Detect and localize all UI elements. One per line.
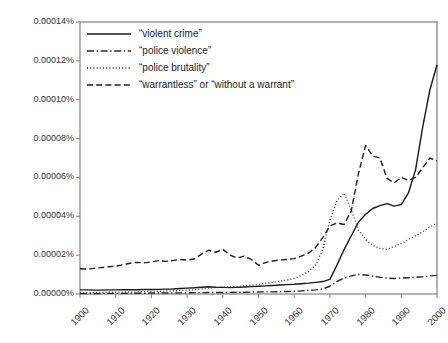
legend-item: “violent crime” [86,25,294,42]
series-line-1 [80,275,437,294]
legend-line-sample-3 [86,79,132,91]
legend-label: “police violence” [139,45,211,56]
y-tick-label: 0.00006% [33,171,74,181]
y-tick-label: 0.00008% [33,133,74,143]
legend-line-sample-2 [86,62,132,74]
y-tick-label: 0.00002% [33,249,74,259]
y-tick-label: 0.00000% [33,288,74,298]
legend-line-sample-1 [86,45,132,57]
y-tick-label: 0.00004% [33,210,74,220]
chart-legend: “violent crime”“police violence”“police … [86,25,294,93]
legend-item: “police violence” [86,42,294,59]
legend-label: “warrantless” or “without a warrant” [139,79,294,90]
y-tick-label: 0.00012% [33,55,74,65]
series-line-3 [80,145,437,269]
y-tick-label: 0.00014% [33,16,74,26]
legend-label: “violent crime” [139,28,202,39]
legend-item: “warrantless” or “without a warrant” [86,76,294,93]
legend-item: “police brutality” [86,59,294,76]
y-tick-label: 0.00010% [33,94,74,104]
series-lines [80,65,437,294]
legend-line-sample-0 [86,28,132,40]
legend-label: “police brutality” [139,62,210,73]
ngram-chart: 0.00014%0.00012%0.00010%0.00008%0.00006%… [0,0,448,343]
series-line-0 [80,65,437,290]
series-line-2 [80,193,437,293]
